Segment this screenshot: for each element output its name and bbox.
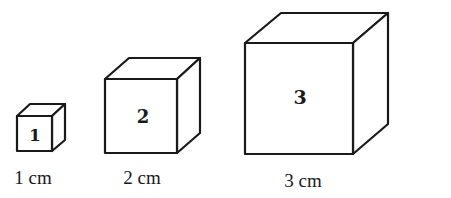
cube-1-caption: 1 cm — [14, 167, 52, 188]
cube-2-label: 2 — [137, 106, 150, 127]
cube-3: 3 — [245, 13, 388, 154]
cube-3-caption: 3 cm — [284, 170, 322, 191]
cube-2-caption: 2 cm — [123, 167, 161, 188]
cube-3-label: 3 — [293, 86, 306, 108]
cube-1-label: 1 — [29, 125, 41, 145]
cubes-diagram: 1 1 cm 2 2 cm 3 3 cm — [0, 0, 451, 198]
cube-1: 1 — [17, 104, 65, 151]
cube-2: 2 — [105, 58, 200, 153]
